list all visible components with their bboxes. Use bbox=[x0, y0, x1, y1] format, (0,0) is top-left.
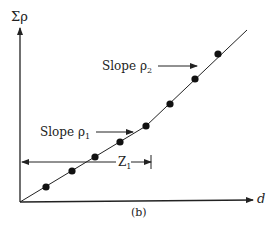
caption: (b) bbox=[131, 206, 147, 219]
data-point bbox=[91, 153, 98, 160]
data-point bbox=[116, 138, 123, 145]
trend-line bbox=[20, 30, 247, 202]
slope1-label: Slope ρ1 bbox=[40, 125, 90, 141]
data-point bbox=[166, 100, 173, 107]
data-point bbox=[68, 167, 75, 174]
data-point bbox=[191, 75, 198, 82]
data-point bbox=[142, 122, 149, 129]
diagram-canvas: Slope ρ1 Slope ρ2 Z1 Σρ d (b) bbox=[0, 0, 280, 225]
x-axis bbox=[20, 200, 253, 202]
data-point bbox=[42, 183, 49, 190]
x-axis-label: d bbox=[257, 191, 265, 206]
y-axis-label: Σρ bbox=[11, 9, 28, 24]
z1-label: Z1 bbox=[118, 155, 131, 171]
slope2-label: Slope ρ2 bbox=[102, 59, 152, 75]
data-point bbox=[214, 50, 221, 57]
